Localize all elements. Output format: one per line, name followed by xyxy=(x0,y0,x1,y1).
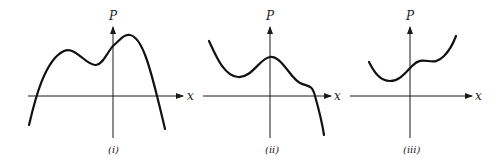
panel-caption: (ii) xyxy=(265,144,279,155)
curve-iii xyxy=(369,36,456,81)
panel-caption: (i) xyxy=(108,144,119,155)
p-axis-label: P xyxy=(265,9,275,23)
x-axis-label: x xyxy=(334,89,341,103)
graphs-figure: P x (i) P x (ii) P x (iii) xyxy=(0,0,498,163)
x-axis-label: x xyxy=(187,89,194,103)
graph-panel-iii: P x (iii) xyxy=(350,9,482,155)
graph-panel-i: P x (i) xyxy=(28,9,194,155)
p-axis-label: P xyxy=(108,9,118,23)
p-axis-label: P xyxy=(405,9,415,23)
curve-i xyxy=(29,35,165,129)
x-axis-label: x xyxy=(475,89,482,103)
graph-panel-ii: P x (ii) xyxy=(203,9,341,155)
panel-caption: (iii) xyxy=(403,144,420,155)
curve-ii xyxy=(209,41,324,135)
